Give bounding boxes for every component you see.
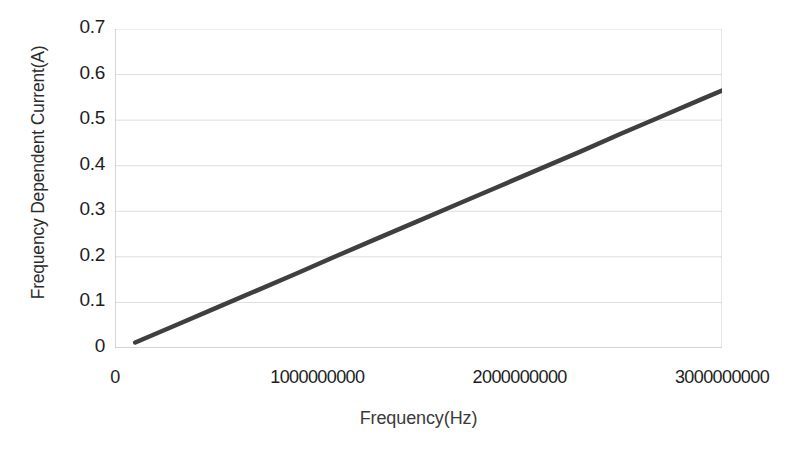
x-tick-label: 1000000000: [270, 367, 364, 388]
x-axis-tick-labels: 0100000000020000000003000000000: [0, 0, 796, 452]
x-tick-label: 3000000000: [675, 367, 769, 388]
x-tick-label: 0: [110, 367, 119, 388]
y-axis-title: Frequency Dependent Current(A): [28, 23, 49, 323]
x-tick-label: 2000000000: [473, 367, 567, 388]
x-axis-title: Frequency(Hz): [115, 408, 722, 429]
chart-figure: 0.70.60.50.40.30.20.10 01000000000200000…: [0, 0, 796, 452]
